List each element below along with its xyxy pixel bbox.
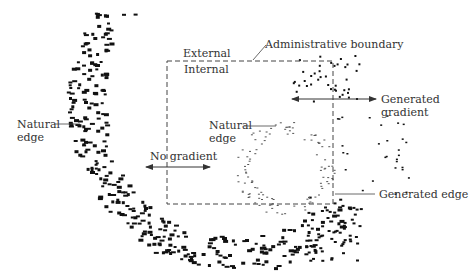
settlement-dot <box>347 92 349 94</box>
settlement-dot <box>253 133 255 134</box>
settlement-dot <box>106 16 109 18</box>
settlement-dot <box>98 197 103 200</box>
settlement-dot <box>90 75 94 77</box>
settlement-dot <box>105 145 108 147</box>
settlement-dot <box>296 91 298 93</box>
settlement-dot <box>329 211 332 213</box>
settlement-dot <box>163 221 166 224</box>
settlement-dot <box>319 247 322 249</box>
settlement-dot <box>109 211 113 213</box>
settlement-dot <box>225 266 230 268</box>
settlement-dot <box>148 222 151 225</box>
settlement-dot <box>338 118 340 120</box>
settlement-dot <box>71 105 74 108</box>
settlement-dot <box>283 255 287 257</box>
settlement-dot <box>338 209 343 212</box>
settlement-dot <box>356 209 359 211</box>
settlement-dot <box>402 138 404 140</box>
settlement-dot <box>310 75 312 77</box>
settlement-dot <box>306 199 308 200</box>
settlement-dot <box>264 140 266 141</box>
settlement-dot <box>289 249 294 252</box>
settlement-dot <box>77 87 80 89</box>
external-label: External <box>183 47 231 60</box>
settlement-dot <box>334 241 337 243</box>
settlement-dot <box>128 208 132 210</box>
settlement-dot <box>152 243 156 246</box>
settlement-dot <box>320 170 322 171</box>
settlement-dot <box>321 260 324 262</box>
settlement-dot <box>261 144 263 145</box>
settlement-dot <box>292 127 294 128</box>
natural-edge-left-label-2: edge <box>17 131 44 144</box>
settlement-dot <box>342 94 344 96</box>
settlement-dot <box>69 84 72 86</box>
settlement-dot <box>217 261 221 264</box>
settlement-dot <box>222 237 227 240</box>
settlement-dot <box>88 69 92 72</box>
settlement-dot <box>154 252 159 254</box>
settlement-dot <box>213 237 217 240</box>
settlement-dot <box>112 184 117 186</box>
settlement-dot <box>317 79 319 81</box>
settlement-dot <box>327 217 330 219</box>
settlement-dot <box>314 252 317 254</box>
settlement-dot <box>78 83 81 86</box>
settlement-dot <box>304 253 308 255</box>
settlement-dot <box>308 231 311 234</box>
settlement-dot <box>311 134 313 135</box>
settlement-dot <box>372 180 374 182</box>
settlement-dot <box>271 208 273 209</box>
settlement-dot <box>274 267 278 270</box>
settlement-dot <box>291 254 295 256</box>
settlement-dot <box>123 195 128 197</box>
settlement-dot <box>321 250 324 252</box>
settlement-dot <box>294 81 296 83</box>
settlement-dot <box>245 172 247 173</box>
settlement-dot <box>344 222 347 224</box>
settlement-dot <box>75 67 80 70</box>
settlement-dot <box>197 264 201 266</box>
settlement-dot <box>122 14 126 16</box>
settlement-dot <box>234 244 237 246</box>
settlement-dot <box>260 192 262 193</box>
settlement-dot <box>212 247 216 249</box>
settlement-dot <box>254 139 256 140</box>
settlement-dot <box>82 143 85 145</box>
settlement-dot <box>287 134 289 135</box>
settlement-dot <box>345 169 347 171</box>
settlement-dot <box>101 36 105 38</box>
settlement-dot <box>158 228 162 230</box>
settlement-dot <box>247 164 249 165</box>
settlement-dot <box>256 149 258 150</box>
settlement-dot <box>101 74 104 77</box>
generated-gradient-label-1: Generated <box>381 93 440 106</box>
settlement-dot <box>342 241 345 243</box>
settlement-dot <box>266 197 268 198</box>
settlement-dot <box>96 16 100 19</box>
settlement-dot <box>177 235 180 237</box>
settlement-dot <box>105 175 109 177</box>
settlement-dot <box>396 161 398 163</box>
settlement-dot <box>246 156 248 157</box>
settlement-dot <box>84 89 89 92</box>
settlement-dot <box>324 159 326 160</box>
settlement-dot <box>282 229 286 232</box>
settlement-dot <box>141 201 144 204</box>
settlement-dot <box>378 143 380 145</box>
settlement-dot <box>320 186 322 187</box>
settlement-dot <box>262 245 265 247</box>
settlement-dot <box>326 209 329 211</box>
settlement-dot <box>252 263 256 265</box>
settlement-dot <box>117 186 122 189</box>
settlement-dot <box>170 233 175 236</box>
settlement-dot <box>349 208 352 210</box>
settlement-dot <box>386 156 388 158</box>
settlement-dot <box>341 117 343 119</box>
settlement-dot <box>293 122 295 123</box>
settlement-dot <box>349 235 352 237</box>
settlement-dot <box>116 181 120 183</box>
settlement-dot <box>182 231 186 234</box>
settlement-dot <box>320 235 323 237</box>
settlement-dot <box>88 142 93 144</box>
